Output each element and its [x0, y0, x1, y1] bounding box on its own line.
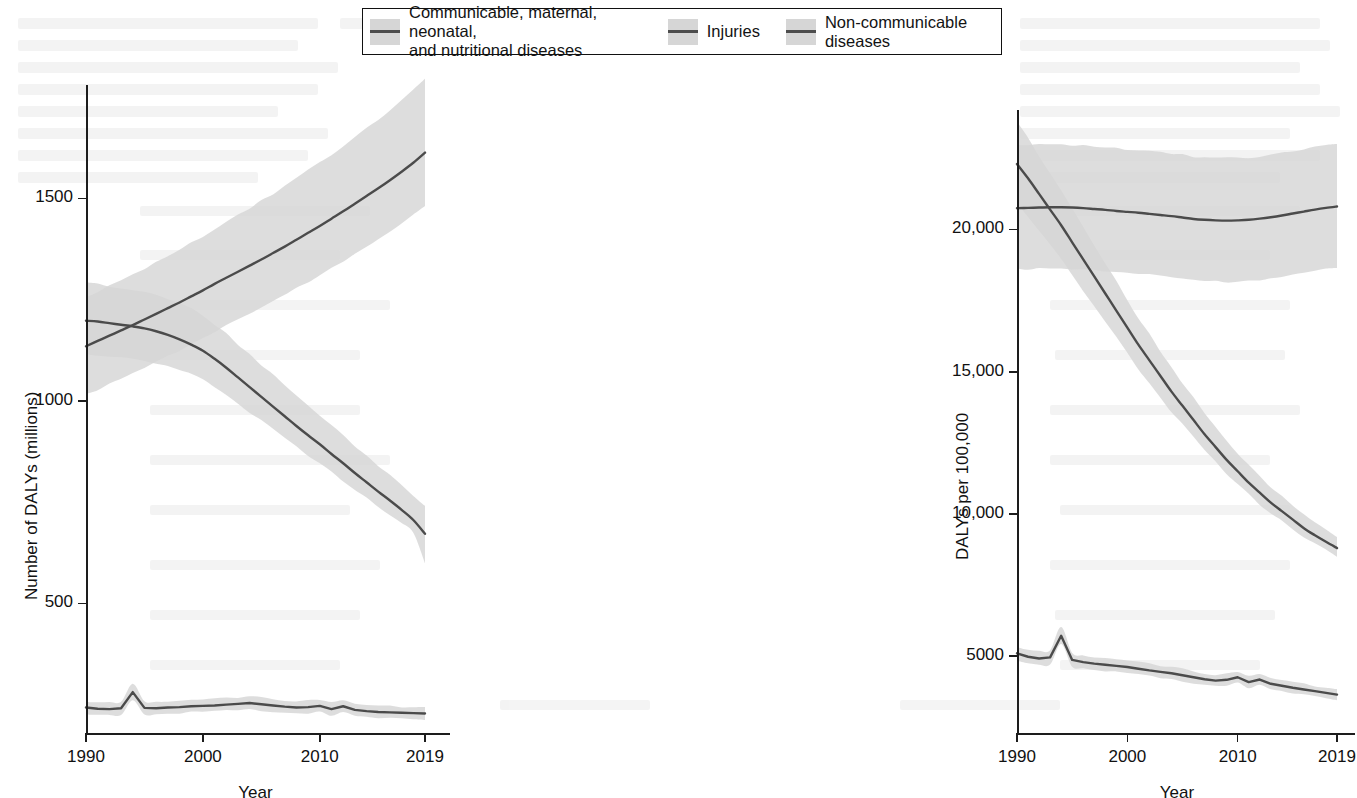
x-axis-tick [424, 733, 426, 742]
panel-number-of-dalys: 500100015001990200020102019YearNumber of… [0, 0, 470, 798]
panel-age-standardized-dalys: 10,00020,0001990200020102019YearAge-stan… [888, 0, 1357, 798]
x-axis-line [86, 733, 450, 735]
y-axis-line [86, 85, 88, 734]
y-axis-title: Number of DALYs (millions) [22, 392, 42, 600]
legend-label-non-communicable: Non-communicable diseases [825, 13, 1001, 51]
plot-area-a: 500100015001990200020102019YearNumber of… [0, 0, 470, 798]
uncertainty-band [86, 79, 425, 394]
x-axis-tick [85, 733, 87, 742]
legend-swatch-injuries-icon [668, 19, 698, 45]
y-axis-tick [78, 603, 86, 605]
legend-label-communicable: Communicable, maternal, neonatal, and nu… [409, 3, 627, 60]
y-axis-tick-label: 1500 [35, 187, 73, 207]
chart-legend: Communicable, maternal, neonatal, and nu… [362, 8, 1002, 55]
plot-area-c: 10,00020,0001990200020102019YearAge-stan… [888, 0, 1357, 798]
x-axis-tick [319, 733, 321, 742]
series-layer [888, 0, 1357, 798]
panel-dalys-per-100000: 500010,00015,00020,0001990200020102019Ye… [448, 0, 900, 798]
legend-item-communicable: Communicable, maternal, neonatal, and nu… [370, 9, 627, 54]
uncertainty-band [86, 684, 425, 720]
x-axis-tick-label: 2000 [163, 747, 243, 767]
legend-item-non-communicable: Non-communicable diseases [786, 9, 1001, 54]
x-axis-tick-label: 1990 [46, 747, 126, 767]
legend-label-injuries: Injuries [707, 22, 760, 41]
y-axis-tick [78, 198, 86, 200]
legend-swatch-non-communicable-icon [786, 19, 816, 45]
legend-swatch-communicable-icon [370, 19, 400, 45]
y-axis-tick [78, 400, 86, 402]
legend-item-injuries: Injuries [668, 9, 760, 54]
y-axis-tick-label: 500 [45, 592, 73, 612]
x-axis-title: Year [196, 783, 316, 798]
x-axis-tick-label: 2010 [280, 747, 360, 767]
x-axis-tick [202, 733, 204, 742]
